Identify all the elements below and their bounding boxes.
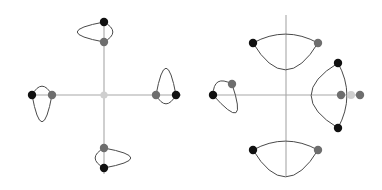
figure-canvas: [0, 0, 382, 190]
left-panel-east-lens-outer-arc: [156, 68, 176, 95]
right-panel-north-lens-outer-dot: [249, 39, 257, 47]
left-panel-south-lens-outer-dot: [100, 164, 108, 172]
right-panel-east-lens-inner-dot: [334, 124, 342, 132]
right-panel-cluster-dot-right: [356, 91, 364, 99]
figure-root: [0, 0, 382, 190]
right-panel-south-lens-inner-dot: [314, 146, 322, 154]
right-panel-west-lens-outer-dot: [209, 91, 217, 99]
right-panel-cluster-dot-left: [337, 91, 345, 99]
right-panel-east-lens-outer-dot: [334, 59, 342, 67]
left-panel-origin-dot: [100, 91, 107, 98]
left-panel-east-lens-inner-dot: [152, 91, 160, 99]
left-panel-east-lens: [156, 68, 176, 104]
right-panel: [209, 15, 364, 177]
right-panel-south-lens-outer-dot: [249, 146, 257, 154]
left-panel-south-lens-inner-dot: [100, 144, 108, 152]
left-panel-west-lens-inner-dot: [48, 91, 56, 99]
right-panel-west-lens-outer-arc: [213, 84, 238, 113]
left-panel-south-lens-outer-arc: [104, 148, 131, 168]
left-panel-west-lens: [32, 86, 52, 122]
left-panel-north-lens-outer-arc: [77, 22, 104, 42]
left-panel-west-lens-outer-arc: [32, 95, 52, 122]
left-panel-north-lens-inner-dot: [100, 38, 108, 46]
left-panel-north-lens: [77, 22, 113, 42]
left-panel-north-lens-outer-dot: [100, 18, 108, 26]
right-panel-west-lens-inner-dot: [228, 80, 236, 88]
left-panel-east-lens-outer-dot: [172, 91, 180, 99]
right-panel-cluster-dot-middle: [347, 91, 355, 99]
left-panel: [28, 18, 181, 174]
right-panel-north-lens-inner-dot: [314, 39, 322, 47]
left-panel-south-lens: [95, 148, 131, 168]
left-panel-west-lens-outer-dot: [28, 91, 36, 99]
